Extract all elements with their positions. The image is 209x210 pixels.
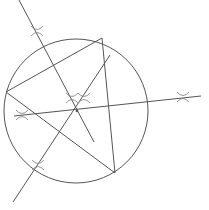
inscribed-triangle <box>6 38 115 173</box>
perpendicular-bisector-AB <box>19 0 94 142</box>
arc-AB-inner-icon <box>66 93 78 103</box>
circumcenter-point <box>76 110 79 113</box>
construction-diagram <box>0 0 209 210</box>
